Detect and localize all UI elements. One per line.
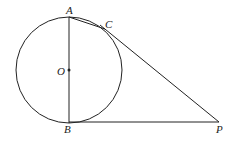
label-a: A — [65, 4, 73, 16]
label-b: B — [64, 123, 71, 135]
label-p: P — [215, 123, 223, 135]
segment-cp — [100, 25, 219, 122]
chord-ac — [69, 17, 105, 29]
geometry-diagram: A C O B P — [0, 0, 238, 141]
label-o: O — [57, 65, 65, 77]
center-point-o — [68, 69, 71, 72]
label-c: C — [105, 18, 113, 30]
